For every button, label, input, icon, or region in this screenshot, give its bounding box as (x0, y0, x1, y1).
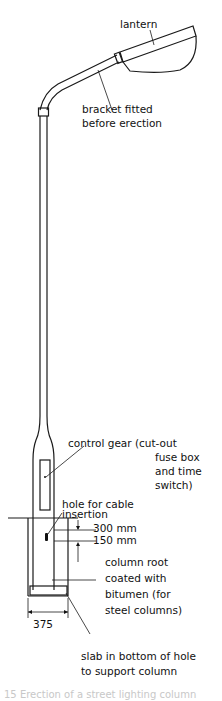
label-dim-300: 300 mm (93, 522, 137, 534)
depth-dimensions (54, 520, 96, 562)
lighting-column-diagram: lantern bracket fitted before erection c… (0, 0, 222, 701)
slab (30, 586, 67, 595)
control-gear-marker (44, 476, 46, 478)
label-root-1: column root (105, 556, 168, 568)
label-bracket-2: before erection (82, 117, 162, 129)
lantern-shape (114, 26, 196, 72)
label-root-3: bitumen (for (105, 588, 171, 600)
label-lantern: lantern (120, 18, 157, 30)
label-root-2: coated with (105, 572, 167, 584)
label-control-gear-4: switch) (155, 479, 193, 491)
width-dimension (28, 598, 68, 618)
cable-hole (45, 533, 48, 541)
figure-caption: 15 Erection of a street lighting column (4, 689, 196, 700)
label-control-gear-1: control gear (cut-out (68, 437, 177, 449)
label-slab-1: slab in bottom of hole (81, 650, 196, 662)
label-control-gear-2: fuse box (155, 451, 200, 463)
label-hole-2: insertion (62, 508, 108, 520)
label-dim-150: 150 mm (93, 534, 137, 546)
label-dim-375: 375 (33, 618, 53, 630)
control-gear-door (40, 460, 50, 510)
pole-shaft (33, 116, 54, 590)
label-bracket-1: bracket fitted (82, 103, 153, 115)
label-slab-2: to support column (81, 665, 177, 677)
label-root-4: steel columns) (105, 604, 182, 616)
label-control-gear-3: and time (155, 465, 202, 477)
